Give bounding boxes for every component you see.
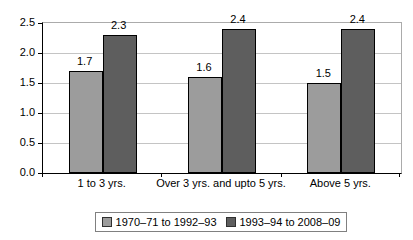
y-axis-tick (38, 83, 42, 84)
y-axis-tick (38, 23, 42, 24)
y-axis-tick-label: 0.0 (5, 166, 35, 178)
category-label: 1 to 3 yrs. (37, 177, 167, 190)
bar-value-label: 2.4 (340, 13, 374, 25)
legend: 1970–71 to 1992–931993–94 to 2008–09 (42, 212, 400, 232)
category-label: Above 5 yrs. (275, 177, 405, 190)
y-axis-tick-label: 2.0 (5, 46, 35, 58)
bar (222, 29, 256, 173)
legend-swatch (226, 217, 236, 227)
bar (103, 35, 137, 173)
legend-label: 1993–94 to 2008–09 (240, 216, 341, 228)
y-axis-tick-label: 2.5 (5, 16, 35, 28)
bar-value-label: 2.3 (102, 19, 136, 31)
legend-label: 1970–71 to 1992–93 (116, 216, 217, 228)
y-axis-tick (38, 53, 42, 54)
legend-item: 1970–71 to 1992–93 (102, 216, 217, 228)
plot-area (42, 22, 402, 174)
y-axis-tick-label: 1.0 (5, 106, 35, 118)
bar-value-label: 2.4 (221, 13, 255, 25)
bar (69, 71, 103, 173)
bar (307, 83, 341, 173)
bar (341, 29, 375, 173)
y-axis-tick (38, 143, 42, 144)
bar-value-label: 1.5 (306, 67, 340, 79)
bar (188, 77, 222, 173)
y-axis-tick-label: 1.5 (5, 76, 35, 88)
y-axis-tick-label: 0.5 (5, 136, 35, 148)
legend-item: 1993–94 to 2008–09 (226, 216, 341, 228)
y-axis-tick (38, 113, 42, 114)
bar-chart: 1970–71 to 1992–931993–94 to 2008–09 0.0… (0, 0, 413, 240)
category-label: Over 3 yrs. and upto 5 yrs. (156, 177, 286, 190)
legend-box: 1970–71 to 1992–931993–94 to 2008–09 (95, 212, 348, 232)
legend-swatch (102, 217, 112, 227)
bar-value-label: 1.7 (68, 55, 102, 67)
bar-value-label: 1.6 (187, 61, 221, 73)
